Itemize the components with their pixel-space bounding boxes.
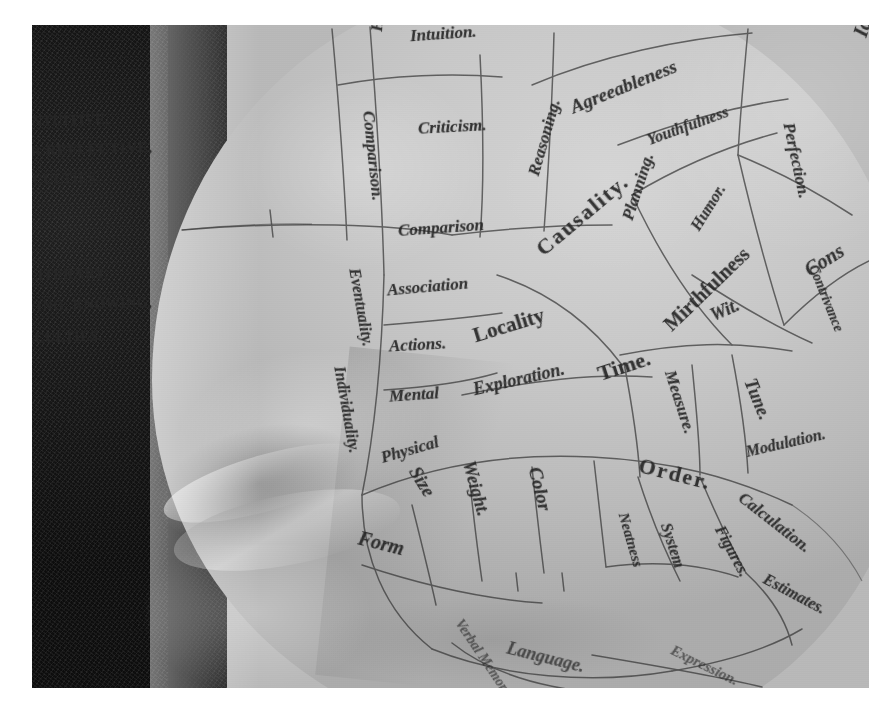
region-tune: Tune. — [741, 376, 774, 422]
margin-bottom — [0, 688, 881, 724]
region-color: Color — [526, 465, 555, 513]
region-individuality: Individuality. — [331, 365, 362, 454]
margin-right — [869, 0, 881, 724]
region-mirthfulness: Mirthfulness — [660, 244, 753, 335]
region-locality: Locality — [471, 305, 547, 347]
region-calculation: Calculation. — [736, 489, 815, 556]
region-agreeableness: Agreeableness — [568, 57, 680, 117]
region-neatness: Neatness — [616, 511, 646, 569]
screenshot-canvas: INTUITIVE, OR REFLECTIVE, FACULTIES. LIT… — [0, 0, 881, 724]
region-ideality: Id — [850, 25, 869, 39]
region-system: System — [658, 521, 687, 570]
region-time: Time. — [595, 347, 653, 385]
region-reasoning: Reasoning. — [525, 97, 563, 178]
region-order: Order. — [636, 454, 713, 493]
region-youthfulness: Youthfulness — [645, 104, 731, 148]
region-verbal-memory: Verbal Memory — [452, 617, 513, 688]
region-actions: Actions. — [389, 335, 447, 355]
region-humor: Humor. — [688, 182, 729, 234]
region-weight: Weight. — [460, 459, 493, 518]
region-exploration: Exploration. — [471, 360, 566, 399]
phrenology-region-labels: INTUITIVE, OR REFLECTIVE, FACULTIES. LIT… — [32, 25, 869, 688]
region-human-nature: Hum — [368, 25, 387, 32]
heading-perceiving-knowing: PERCEIVING, KNOWING, — [32, 296, 152, 316]
region-contrivance: Contrivance — [806, 263, 845, 334]
region-intuition: Intuition. — [409, 25, 477, 44]
region-modulation: Modulation. — [744, 426, 827, 460]
region-expression: Expression. — [668, 643, 740, 688]
heading-faculties-2: FACULTIES. — [32, 329, 103, 346]
region-mental: Mental — [388, 384, 439, 404]
region-estimates: Estimates. — [760, 571, 828, 617]
margin-left — [0, 0, 32, 724]
heading-faculties-1: FACULTIES. — [32, 171, 101, 188]
region-association: Association — [386, 274, 468, 298]
region-size: Size — [406, 463, 439, 500]
margin-top — [0, 0, 881, 25]
region-comparison-minor: Comparison — [398, 216, 485, 239]
phrenology-head-photograph: INTUITIVE, OR REFLECTIVE, FACULTIES. LIT… — [32, 25, 869, 688]
heading-reflective: OR REFLECTIVE, — [32, 140, 153, 160]
region-measure: Measure. — [662, 368, 698, 436]
region-eventuality: Eventuality. — [346, 267, 375, 348]
region-comparison-major: Comparison. — [360, 110, 386, 202]
region-wit: Wit. — [708, 296, 743, 325]
region-perfection: Perfection. — [780, 121, 813, 200]
region-physical: Physical — [379, 433, 441, 466]
heading-intuitive: INTUITIVE, — [32, 113, 109, 130]
region-criticism: Criticism. — [418, 116, 487, 137]
region-figures: Figures. — [712, 523, 752, 580]
region-language: Language. — [505, 639, 587, 676]
region-form: Form — [356, 528, 406, 559]
heading-literary: LITERARY, — [32, 267, 108, 284]
